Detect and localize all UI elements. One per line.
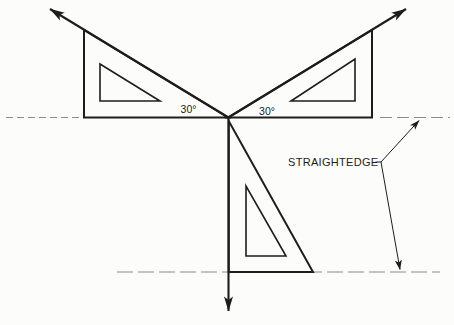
angle-label-right: 30° bbox=[259, 105, 275, 117]
straightedge-label: STRAIGHTEDGE bbox=[288, 156, 378, 168]
leader-line-upper bbox=[376, 121, 420, 163]
leader-line-lower bbox=[381, 162, 400, 270]
diagram-stage: 30° 30° STRAIGHTEDGE bbox=[0, 0, 454, 325]
bottom-triangle-cutout bbox=[246, 186, 286, 256]
right-triangle-cutout bbox=[291, 59, 355, 101]
diagram-canvas: 30° 30° STRAIGHTEDGE bbox=[0, 0, 454, 325]
bottom-triangle-outline bbox=[229, 121, 313, 272]
angle-label-left: 30° bbox=[181, 103, 197, 115]
left-triangle-outline bbox=[84, 30, 228, 118]
right-triangle-outline bbox=[228, 30, 372, 118]
